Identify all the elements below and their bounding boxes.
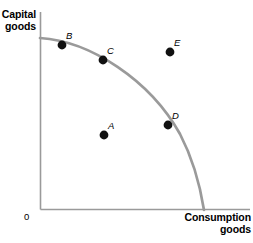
- data-point-C[interactable]: [99, 56, 108, 65]
- data-point-B[interactable]: [58, 41, 67, 50]
- ppf-curve: [40, 38, 204, 210]
- point-label-A: A: [108, 120, 114, 131]
- y-axis-title-line1: Capital: [0, 9, 36, 21]
- ppf-plot-area: [0, 0, 253, 243]
- point-label-C: C: [107, 45, 114, 56]
- x-axis-title-line2: goods: [159, 224, 251, 236]
- data-point-D[interactable]: [164, 121, 173, 130]
- x-axis-title-line1: Consumption: [159, 212, 251, 224]
- point-label-E: E: [174, 37, 180, 48]
- y-axis-title: Capital goods: [0, 9, 36, 32]
- data-point-E[interactable]: [166, 48, 175, 57]
- ppf-figure: Capital goods Consumption goods 0 A B C …: [0, 0, 253, 243]
- point-label-D: D: [172, 110, 179, 121]
- point-label-B: B: [66, 30, 72, 41]
- x-axis-title: Consumption goods: [159, 212, 251, 235]
- origin-label: 0: [24, 211, 29, 222]
- data-point-A[interactable]: [100, 131, 109, 140]
- y-axis-title-line2: goods: [0, 21, 36, 33]
